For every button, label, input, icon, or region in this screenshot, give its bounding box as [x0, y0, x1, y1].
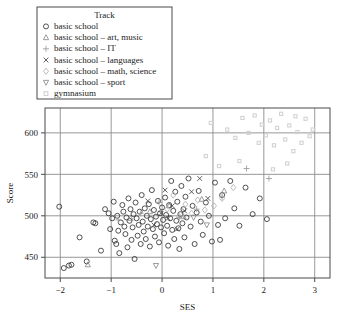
data-point-6-2: [234, 136, 237, 139]
data-point-0-30: [130, 225, 135, 230]
data-point-0-35: [135, 233, 140, 238]
data-point-0-22: [122, 224, 127, 229]
data-point-3-0: [145, 199, 150, 204]
data-point-0-12: [110, 216, 115, 221]
data-point-0-101: [232, 206, 237, 211]
data-point-0-69: [170, 227, 175, 232]
y-tick-label-2: 550: [25, 170, 39, 180]
data-point-0-84: [186, 176, 191, 181]
data-point-6-3: [241, 116, 244, 119]
data-point-3-7: [182, 208, 187, 213]
data-point-5-0: [153, 264, 158, 269]
data-point-6-6: [257, 141, 260, 144]
data-point-0-106: [264, 217, 269, 222]
data-point-0-100: [228, 178, 233, 183]
data-point-6-16: [296, 130, 299, 133]
data-point-0-17: [116, 228, 121, 233]
data-point-6-19: [308, 135, 311, 138]
data-point-6-14: [288, 124, 291, 127]
data-point-0-94: [209, 239, 214, 244]
data-point-0-29: [129, 237, 134, 242]
data-point-6-20: [271, 168, 274, 171]
x-tick-label-5: 3: [312, 285, 317, 295]
data-point-0-13: [111, 199, 116, 204]
data-point-0-40: [140, 219, 145, 224]
data-point-0-33: [133, 200, 138, 205]
y-tick-label-0: 450: [25, 252, 39, 262]
data-point-0-102: [237, 223, 242, 228]
data-point-0-18: [117, 251, 122, 256]
legend-label-0: basic school: [54, 21, 99, 31]
data-point-6-5: [253, 114, 256, 117]
data-point-0-71: [172, 237, 177, 242]
data-point-0-45: [145, 224, 150, 229]
data-point-4-9: [231, 184, 236, 190]
data-point-6-25: [294, 115, 297, 118]
data-point-0-49: [149, 188, 154, 193]
legend-item-1[interactable]: basic school – art, music: [43, 32, 142, 42]
data-point-0-19: [118, 220, 123, 225]
data-point-0-41: [141, 229, 146, 234]
y-tick-label-3: 600: [25, 128, 39, 138]
data-point-6-7: [260, 123, 263, 126]
data-point-6-11: [275, 126, 278, 129]
data-point-2-2: [156, 200, 162, 206]
scatter-plot-figure: −2−10123450500550600 SESScore Trackbasic…: [0, 0, 350, 318]
data-point-0-43: [143, 237, 148, 242]
data-point-0-87: [192, 242, 197, 247]
legend-item-4[interactable]: basic school – math, science: [44, 66, 157, 76]
legend-label-6: gymnasium: [54, 88, 96, 98]
grid-lines: [45, 108, 330, 278]
legend-label-3: basic school – languages: [54, 55, 144, 65]
data-point-6-26: [311, 128, 314, 131]
data-point-0-65: [166, 243, 171, 248]
data-point-2-6: [244, 166, 250, 172]
data-point-3-9: [197, 176, 202, 181]
data-point-6-12: [280, 112, 283, 115]
legend-item-3[interactable]: basic school – languages: [44, 55, 144, 65]
data-point-6-23: [204, 155, 207, 158]
data-point-6-1: [226, 128, 229, 131]
data-point-0-70: [171, 208, 176, 213]
data-point-0-39: [139, 193, 144, 198]
data-point-0-86: [190, 203, 195, 208]
data-point-0-4: [77, 235, 82, 240]
data-point-0-52: [152, 234, 157, 239]
x-tick-label-3: 1: [211, 285, 216, 295]
legend-title: Track: [94, 10, 115, 20]
data-point-6-10: [272, 144, 275, 147]
x-tick-label-0: −2: [55, 285, 65, 295]
data-point-0-28: [128, 207, 133, 212]
data-point-6-9: [268, 119, 271, 122]
legend-item-2[interactable]: basic school – IT: [43, 43, 116, 53]
data-point-0-81: [182, 235, 187, 240]
data-point-0-51: [151, 208, 156, 213]
legend: Trackbasic schoolbasic school – art, mus…: [37, 7, 172, 99]
data-point-0-1: [61, 266, 66, 271]
data-point-0-103: [243, 185, 248, 190]
data-point-0-73: [174, 218, 179, 223]
data-point-1-0: [85, 262, 90, 267]
data-point-0-78: [179, 183, 184, 188]
data-point-0-21: [121, 209, 126, 214]
data-point-0-76: [177, 246, 182, 251]
data-point-4-7: [211, 203, 216, 209]
axis-ticks: [41, 133, 315, 282]
data-point-0-42: [142, 206, 147, 211]
data-point-6-13: [284, 138, 287, 141]
data-point-0-58: [159, 225, 164, 230]
legend-label-2: basic school – IT: [54, 43, 116, 53]
data-point-0-85: [188, 224, 193, 229]
data-point-0-9: [103, 207, 108, 212]
data-point-0-62: [163, 195, 168, 200]
data-point-0-8: [98, 248, 103, 253]
legend-label-1: basic school – art, music: [54, 32, 143, 42]
x-tick-label-1: −1: [106, 285, 116, 295]
data-point-0-97: [218, 237, 223, 242]
data-point-6-17: [300, 141, 303, 144]
data-point-0-48: [148, 217, 153, 222]
y-axis-title: Score: [5, 183, 15, 204]
legend-label-5: basic school – sport: [54, 77, 126, 87]
legend-item-5[interactable]: basic school – sport: [43, 77, 125, 87]
data-point-6-8: [264, 134, 267, 137]
